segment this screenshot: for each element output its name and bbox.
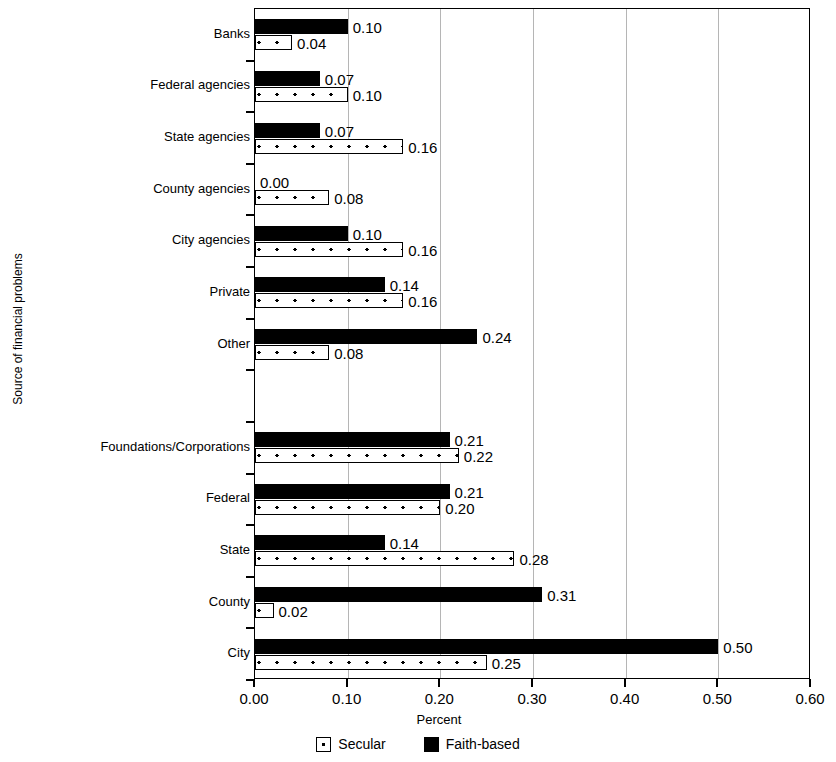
bar-value-label-faith-based: 0.50 — [723, 640, 752, 655]
y-axis-label-banks: Banks — [0, 26, 250, 41]
bar-secular — [255, 293, 403, 308]
y-axis-label-other: Other — [0, 336, 250, 351]
bar-group — [255, 370, 809, 422]
bar-group: 0.000.08 — [255, 164, 809, 216]
chart-legend: Secular Faith-based — [0, 736, 836, 752]
bar-faith-based — [255, 123, 320, 138]
bar-value-label-secular: 0.10 — [353, 88, 382, 103]
y-axis-label-federal: Federal — [0, 490, 250, 505]
bar-fill-pattern — [256, 191, 328, 204]
bar-value-label-faith-based: 0.14 — [390, 278, 419, 293]
bar-secular — [255, 448, 459, 463]
bar-value-label-secular: 0.16 — [408, 294, 437, 309]
bar-chart-figure: Source of financial problems BanksFedera… — [0, 0, 836, 762]
bar-value-label-secular: 0.08 — [334, 346, 363, 361]
bar-value-label-secular: 0.22 — [464, 449, 493, 464]
bar-group: 0.070.16 — [255, 112, 809, 164]
bar-value-label-secular: 0.16 — [408, 140, 437, 155]
y-axis-label-state: State — [0, 542, 250, 557]
bar-value-label-secular: 0.25 — [492, 656, 521, 671]
bar-value-label-faith-based: 0.07 — [325, 72, 354, 87]
bar-secular — [255, 139, 403, 154]
white-dotted-square-icon — [316, 737, 331, 752]
bar-secular — [255, 500, 440, 515]
x-axis-tick — [809, 679, 811, 687]
bar-fill-pattern — [256, 294, 402, 307]
bar-group: 0.070.10 — [255, 61, 809, 113]
bar-secular — [255, 242, 403, 257]
bar-value-label-faith-based: 0.21 — [455, 485, 484, 500]
bar-fill-pattern — [256, 656, 486, 669]
bar-group: 0.100.16 — [255, 215, 809, 267]
bar-faith-based — [255, 587, 542, 602]
bar-value-label-faith-based: 0.24 — [482, 330, 511, 345]
y-axis-label-federal-agencies: Federal agencies — [0, 77, 250, 92]
bar-fill-pattern — [256, 88, 347, 101]
x-axis-title-text: Percent — [417, 712, 462, 727]
bar-value-label-faith-based: 0.10 — [353, 20, 382, 35]
legend-item-secular: Secular — [316, 736, 385, 752]
bar-secular — [255, 190, 329, 205]
bar-group: 0.100.04 — [255, 9, 809, 61]
bar-faith-based — [255, 484, 450, 499]
bar-faith-based — [255, 639, 718, 654]
y-axis-label-county-agencies: County agencies — [0, 181, 250, 196]
bar-secular — [255, 345, 329, 360]
legend-label-secular: Secular — [338, 736, 385, 752]
bar-value-label-faith-based: 0.14 — [390, 536, 419, 551]
bar-fill-pattern — [256, 501, 439, 514]
bar-secular — [255, 35, 292, 50]
bar-value-label-secular: 0.16 — [408, 243, 437, 258]
bar-faith-based — [255, 535, 385, 550]
bar-value-label-faith-based: 0.07 — [325, 124, 354, 139]
y-axis-label-private: Private — [0, 284, 250, 299]
bar-group: 0.310.02 — [255, 577, 809, 629]
bar-secular — [255, 87, 348, 102]
y-axis-label-foundations-corporations: Foundations/Corporations — [0, 439, 250, 454]
bar-secular — [255, 655, 487, 670]
bar-group: 0.210.22 — [255, 422, 809, 474]
y-axis-label-city-agencies: City agencies — [0, 232, 250, 247]
x-axis-tick — [716, 679, 718, 687]
bar-group: 0.210.20 — [255, 474, 809, 526]
bar-fill-pattern — [256, 140, 402, 153]
bar-value-label-faith-based: 0.10 — [353, 227, 382, 242]
bar-fill-pattern — [256, 346, 328, 359]
y-axis-category-labels: BanksFederal agenciesState agenciesCount… — [0, 0, 250, 762]
bar-faith-based — [255, 71, 320, 86]
x-axis-tick-label: 0.20 — [399, 690, 479, 707]
y-axis-label-city: City — [0, 645, 250, 660]
bar-value-label-faith-based: 0.00 — [260, 175, 289, 190]
bar-value-label-secular: 0.20 — [445, 501, 474, 516]
x-axis-tick-label: 0.30 — [492, 690, 572, 707]
bar-secular — [255, 551, 514, 566]
bar-faith-based — [255, 329, 477, 344]
bar-value-label-secular: 0.28 — [519, 552, 548, 567]
bar-fill-pattern — [256, 449, 458, 462]
x-axis-title: Percent — [0, 712, 836, 727]
bar-value-label-faith-based: 0.21 — [455, 433, 484, 448]
bar-secular — [255, 603, 274, 618]
legend-item-faith-based: Faith-based — [424, 736, 520, 752]
bar-fill-pattern — [256, 552, 513, 565]
bar-value-label-faith-based: 0.31 — [547, 588, 576, 603]
x-axis-tick-label: 0.60 — [770, 690, 836, 707]
bar-value-label-secular: 0.08 — [334, 191, 363, 206]
bar-value-label-secular: 0.04 — [297, 36, 326, 51]
x-axis-tick-label: 0.50 — [677, 690, 757, 707]
y-axis-label-county: County — [0, 594, 250, 609]
x-axis-tick-label: 0.00 — [214, 690, 294, 707]
x-axis-tick-label: 0.10 — [307, 690, 387, 707]
bar-faith-based — [255, 277, 385, 292]
bar-value-label-secular: 0.02 — [279, 604, 308, 619]
bar-fill-pattern — [256, 36, 291, 49]
bar-group: 0.240.08 — [255, 319, 809, 371]
legend-label-faith-based: Faith-based — [446, 736, 520, 752]
x-axis-tick-label: 0.40 — [585, 690, 665, 707]
bar-faith-based — [255, 226, 348, 241]
bar-fill-pattern — [256, 604, 273, 617]
plot-area: 0.100.040.070.100.070.160.000.080.100.16… — [254, 8, 810, 679]
x-axis-tick — [531, 679, 533, 687]
y-axis-label-state-agencies: State agencies — [0, 129, 250, 144]
bar-faith-based — [255, 432, 450, 447]
